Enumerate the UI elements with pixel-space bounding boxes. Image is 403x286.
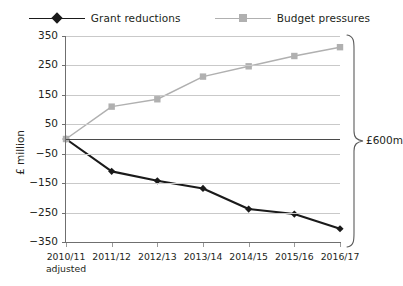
total-range-brace-icon [345,33,367,249]
x-tick-label: 2016/17 [310,251,370,262]
legend-label-budget-pressures: Budget pressures [277,12,371,24]
x-tick-mark [112,243,113,247]
y-tick-label: 250 [20,58,58,70]
y-tick-label: −50 [20,147,58,159]
gridline [66,154,340,155]
y-tick-label: −350 [20,235,58,247]
data-point-marker[interactable] [200,73,206,79]
x-tick-mark [249,243,250,247]
square-marker-icon [239,14,247,22]
y-tick-label: 150 [20,88,58,100]
x-tick-mark [294,243,295,247]
data-point-marker[interactable] [336,225,343,232]
legend-label-grant-reductions: Grant reductions [91,12,181,24]
zero-line [66,139,340,140]
gridline [66,36,340,37]
data-point-marker[interactable] [245,205,252,212]
data-point-marker[interactable] [337,44,343,50]
x-tick-mark [203,243,204,247]
x-tick-mark [340,243,341,247]
gridline [66,183,340,184]
gridline [66,95,340,96]
data-point-marker[interactable] [199,185,206,192]
y-axis-line [65,36,66,243]
x-tick-mark [157,243,158,247]
legend-swatch-budget-pressures [215,13,271,24]
data-point-marker[interactable] [291,210,298,217]
total-range-label: £600m [366,134,403,146]
legend-swatch-grant-reductions [29,13,85,24]
x-tick-sublabel: adjusted [36,263,96,274]
data-point-marker[interactable] [108,103,114,109]
legend-item-grant-reductions[interactable]: Grant reductions [29,12,181,24]
diamond-marker-icon [51,12,62,23]
plot-area [66,36,340,242]
x-tick-mark [66,243,67,247]
data-point-marker[interactable] [154,96,160,102]
y-tick-label: −250 [20,206,58,218]
gridline [66,124,340,125]
legend-item-budget-pressures[interactable]: Budget pressures [215,12,371,24]
y-tick-label: 350 [20,29,58,41]
y-tick-label: 50 [20,117,58,129]
chart-legend: Grant reductions Budget pressures [0,7,399,29]
y-tick-label: −150 [20,176,58,188]
gridline [66,213,340,214]
data-point-marker[interactable] [291,53,297,59]
gridline [66,65,340,66]
